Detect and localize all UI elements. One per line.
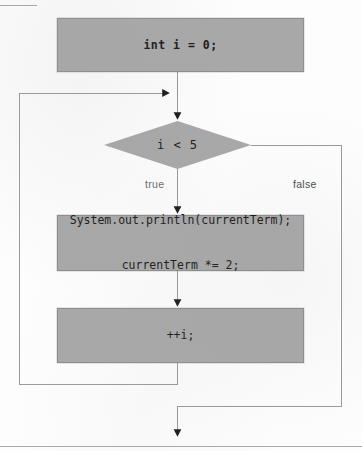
node-init-text: int i = 0; (143, 38, 217, 53)
node-init-statement: int i = 0; (57, 18, 304, 72)
node-increment: ++i; (57, 308, 304, 363)
node-increment-text: ++i; (167, 328, 195, 343)
branch-label-false: false (293, 178, 317, 190)
node-body-line2: currentTerm *= 2; (70, 258, 292, 273)
node-loop-body: System.out.println(currentTerm); current… (57, 215, 304, 271)
figure-canvas: int i = 0; i < 5 true false System.out.p… (0, 0, 362, 451)
node-body-line1: System.out.println(currentTerm); (70, 213, 292, 228)
node-decision-text: i < 5 (104, 121, 251, 169)
branch-label-true: true (145, 178, 164, 190)
node-decision-condition: i < 5 (104, 121, 251, 169)
